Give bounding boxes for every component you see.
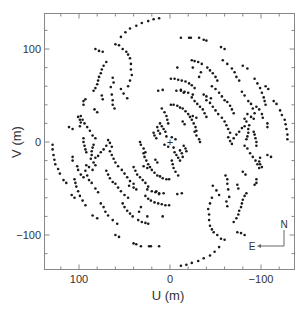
- uv-point: [172, 167, 175, 170]
- uv-point: [138, 211, 141, 214]
- uv-point: [174, 171, 177, 174]
- uv-point: [247, 131, 250, 134]
- uv-point: [113, 107, 116, 110]
- uv-point: [70, 194, 73, 197]
- uv-point: [240, 206, 243, 209]
- uv-point: [153, 171, 156, 174]
- uv-point: [147, 20, 150, 23]
- uv-point: [164, 131, 167, 134]
- uv-point: [203, 112, 206, 115]
- uv-point: [182, 144, 185, 147]
- uv-point: [141, 221, 144, 224]
- uv-point: [191, 59, 194, 62]
- uv-point: [142, 165, 145, 168]
- uv-point: [266, 122, 269, 125]
- uv-point: [181, 152, 184, 155]
- uv-point: [177, 174, 180, 177]
- uv-point: [211, 197, 214, 200]
- uv-coverage-chart: 1000−100 1000−100 + U (m) V (m) N E: [0, 0, 304, 315]
- uv-point: [286, 138, 289, 141]
- uv-point: [193, 87, 196, 90]
- uv-point: [163, 144, 166, 147]
- uv-point: [79, 195, 82, 198]
- uv-point: [91, 134, 94, 137]
- uv-point: [109, 150, 112, 153]
- uv-point: [180, 264, 183, 267]
- uv-point: [227, 188, 230, 191]
- uv-point: [275, 103, 278, 106]
- uv-point: [59, 172, 62, 175]
- uv-point: [161, 89, 164, 92]
- uv-point: [256, 163, 259, 166]
- uv-point: [256, 82, 259, 85]
- uv-point: [171, 159, 174, 162]
- uv-point: [193, 60, 196, 63]
- uv-point: [94, 87, 97, 90]
- uv-point: [74, 182, 77, 185]
- uv-point: [177, 157, 180, 160]
- uv-point: [202, 38, 205, 41]
- uv-point: [223, 99, 226, 102]
- uv-point: [188, 82, 191, 85]
- uv-point: [279, 109, 282, 112]
- uv-point: [191, 96, 194, 99]
- uv-point: [168, 178, 171, 181]
- uv-point: [144, 222, 147, 225]
- uv-point: [111, 99, 114, 102]
- uv-point: [223, 120, 226, 123]
- uv-point: [144, 151, 147, 154]
- uv-point: [93, 108, 96, 111]
- uv-point: [241, 202, 244, 205]
- uv-point: [96, 111, 99, 114]
- uv-point: [144, 195, 147, 198]
- uv-point: [157, 202, 160, 205]
- uv-point: [114, 234, 117, 237]
- uv-point: [149, 166, 152, 169]
- uv-point: [52, 154, 55, 157]
- uv-point: [102, 206, 105, 209]
- uv-point: [192, 122, 195, 125]
- uv-point: [255, 178, 258, 181]
- uv-point: [213, 250, 216, 253]
- uv-point: [237, 213, 240, 216]
- uv-point: [243, 125, 246, 128]
- uv-point: [281, 114, 284, 117]
- uv-point: [226, 101, 229, 104]
- uv-point: [94, 164, 97, 167]
- uv-point: [181, 120, 184, 123]
- uv-point: [191, 118, 194, 121]
- uv-point: [129, 57, 132, 60]
- uv-point: [57, 168, 60, 171]
- uv-point: [124, 31, 127, 34]
- uv-point: [214, 76, 217, 79]
- uv-point: [261, 91, 264, 94]
- uv-point: [129, 27, 132, 30]
- uv-point: [135, 243, 138, 246]
- uv-point: [183, 123, 186, 126]
- uv-point: [209, 102, 212, 105]
- uv-point: [96, 217, 99, 220]
- uv-point: [151, 190, 154, 193]
- uv-point: [209, 224, 212, 227]
- uv-point: [177, 78, 180, 81]
- uv-point: [71, 159, 74, 162]
- uv-point: [209, 202, 212, 205]
- uv-point: [285, 128, 288, 131]
- uv-point: [90, 150, 93, 153]
- uv-point: [192, 115, 195, 118]
- uv-point: [235, 76, 238, 79]
- uv-point: [156, 126, 159, 129]
- uv-point: [98, 76, 101, 79]
- uv-point: [96, 83, 99, 86]
- uv-point: [109, 177, 112, 180]
- uv-point: [216, 234, 219, 237]
- uv-point: [130, 63, 133, 66]
- uv-point: [165, 115, 168, 118]
- uv-point: [122, 92, 125, 95]
- uv-point: [179, 149, 182, 152]
- uv-point: [246, 147, 249, 150]
- uv-point: [229, 140, 232, 143]
- uv-point: [232, 221, 235, 224]
- uv-point: [232, 112, 235, 115]
- uv-point: [100, 202, 103, 205]
